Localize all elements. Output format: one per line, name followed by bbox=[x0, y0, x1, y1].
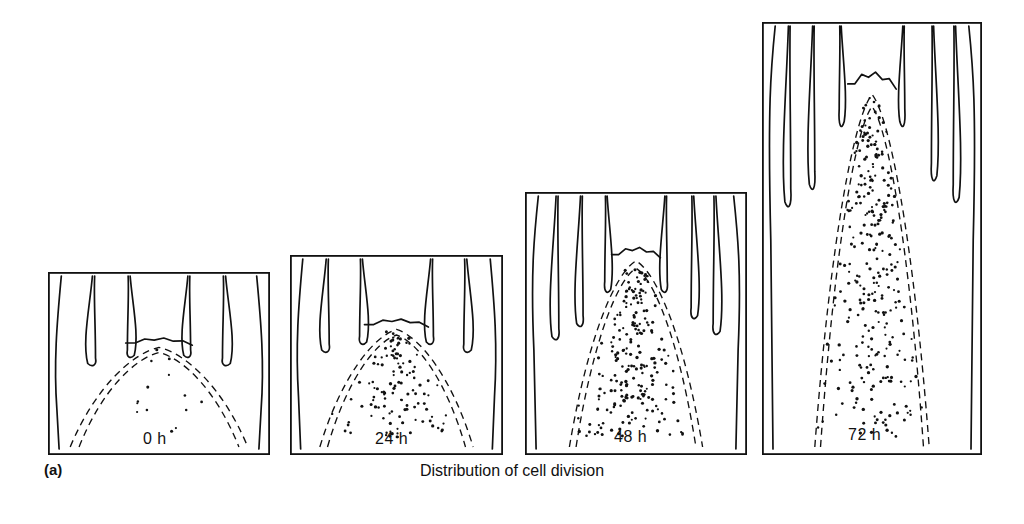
time-label-48h: 48 h bbox=[614, 429, 647, 445]
panel-48h-drawing bbox=[525, 192, 747, 455]
time-label-24h: 24 h bbox=[375, 431, 408, 447]
panel-48h: 48 h bbox=[525, 192, 747, 455]
panel-0h: 0 h bbox=[48, 272, 270, 455]
panel-72h-drawing bbox=[762, 22, 982, 455]
panel-72h: 72 h bbox=[762, 22, 982, 455]
panel-24h-drawing bbox=[290, 255, 503, 455]
time-label-72h: 72 h bbox=[848, 427, 881, 443]
figure-caption: Distribution of cell division bbox=[420, 463, 604, 479]
panel-24h: 24 h bbox=[290, 255, 503, 455]
time-label-0h: 0 h bbox=[143, 431, 167, 447]
panel-letter-label: (a) bbox=[44, 462, 62, 477]
figure-root: 0 h 24 h 48 h 72 h (a) Distribution of c… bbox=[0, 0, 1024, 524]
panel-0h-drawing bbox=[48, 272, 270, 455]
